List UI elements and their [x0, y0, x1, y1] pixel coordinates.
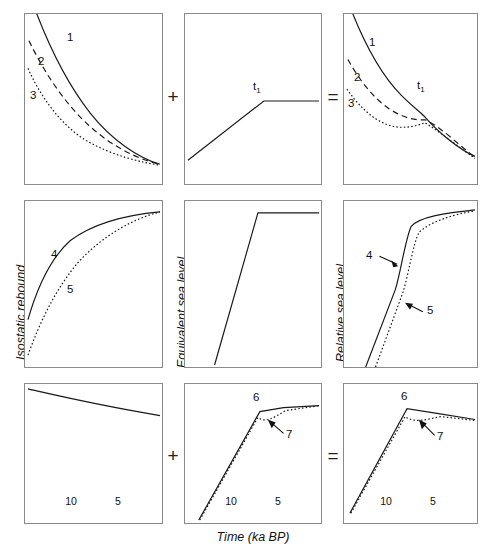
curve-5 [28, 212, 160, 355]
plot-row1-col1 [25, 14, 162, 184]
panel-row2-col2 [184, 200, 322, 368]
curve-5 [376, 211, 476, 367]
curve-equivalent-sea-level [188, 101, 319, 160]
curve-label-1: 1 [369, 36, 375, 48]
operator-equals-row3: = [323, 446, 343, 466]
plot-row2-col1 [25, 201, 162, 367]
operator-plus-row3: + [163, 446, 183, 466]
curve-4 [366, 210, 475, 367]
curve-equivalent-sea-level [215, 213, 319, 365]
xtick-10: 10 [378, 495, 394, 507]
curve-label-7: 7 [437, 430, 443, 442]
xtick-5: 5 [110, 495, 126, 507]
arrowhead-7 [268, 419, 276, 428]
curve-7 [200, 406, 319, 520]
panel-row3-col2: 6 7 10 5 [184, 383, 322, 524]
curve-label-4: 4 [51, 248, 57, 260]
plot-row3-col1 [25, 384, 162, 523]
xtick-10: 10 [223, 495, 239, 507]
plot-row1-col2 [185, 14, 321, 184]
panel-row1-col2: t1 [184, 13, 322, 185]
xtick-10: 10 [63, 495, 79, 507]
curve-label-4: 4 [366, 249, 372, 261]
curve-label-5: 5 [427, 304, 433, 316]
curve-label-5: 5 [67, 283, 73, 295]
curve-label-2: 2 [354, 71, 360, 83]
operator-equals-row1: = [323, 87, 343, 107]
figure-sea-level-decomposition: 1 2 3 + t1 = 1 2 3 t1 Isostatic rebound [0, 0, 488, 557]
t1-subscript: 1 [256, 86, 260, 95]
curve-label-7: 7 [286, 428, 292, 440]
xtick-5: 5 [270, 495, 286, 507]
panel-row2-col3: 4 5 [343, 200, 478, 368]
operator-plus-row1: + [163, 87, 183, 107]
curve-label-2: 2 [38, 55, 44, 67]
panel-row1-col3: 1 2 3 t1 [343, 13, 478, 185]
xtick-5: 5 [425, 495, 441, 507]
plot-row3-col2 [185, 384, 321, 523]
leader-line-4 [379, 256, 397, 264]
curve-3 [347, 89, 475, 158]
plot-row2-col3 [344, 201, 477, 367]
panel-row2-col1: 4 5 [24, 200, 163, 368]
curve-far-field-rebound [28, 389, 160, 416]
arrowhead-7 [419, 419, 427, 429]
plot-row1-col3 [344, 14, 477, 184]
xlabel-time: Time (ka BP) [184, 530, 322, 544]
curve-label-6: 6 [253, 391, 259, 403]
panel-row3-col1: 10 5 [24, 383, 163, 524]
curve-label-6: 6 [401, 390, 407, 402]
curve-label-3: 3 [30, 89, 36, 101]
plot-row2-col2 [185, 201, 321, 367]
curve-label-t1: t1 [417, 79, 425, 94]
panel-row3-col3: 6 7 10 5 [343, 383, 478, 524]
panel-row1-col1: 1 2 3 [24, 13, 163, 185]
curve-label-t1: t1 [253, 80, 261, 95]
curve-2 [348, 59, 475, 157]
curve-1 [37, 14, 160, 164]
curve-6 [350, 409, 475, 513]
curve-label-1: 1 [67, 31, 73, 43]
t1-subscript: 1 [420, 85, 424, 94]
curve-2 [29, 41, 160, 165]
curve-6 [199, 406, 319, 520]
curve-label-3: 3 [348, 97, 354, 109]
curve-7 [351, 417, 475, 514]
curve-4 [28, 212, 160, 320]
plot-row3-col3 [344, 384, 477, 523]
